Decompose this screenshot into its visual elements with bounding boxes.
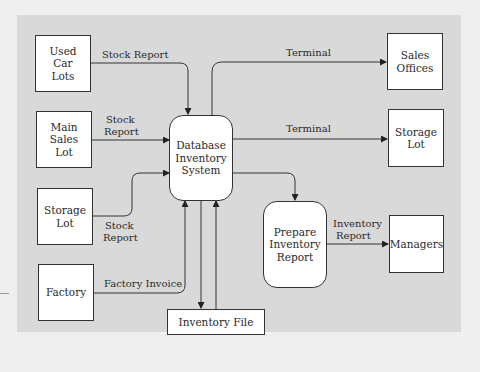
entity-storage-lot-dest: Storage Lot xyxy=(388,109,444,167)
entity-label: Storage Lot xyxy=(394,126,438,151)
entity-sales-offices: Sales Offices xyxy=(387,33,443,90)
flow-label: Stock xyxy=(106,114,135,126)
flow-label: Report xyxy=(336,230,371,242)
process-prepare-inventory-report: Prepare Inventory Report xyxy=(263,201,327,288)
flow-label: Stock Report xyxy=(102,49,168,61)
flow-label: Terminal xyxy=(286,47,331,59)
entity-label: Sales Offices xyxy=(395,49,435,74)
flow-label: Terminal xyxy=(286,123,331,135)
datastore-label: Inventory File xyxy=(179,316,254,329)
process-label: Database Inventory System xyxy=(173,139,229,177)
entity-label: Storage Lot xyxy=(43,204,87,229)
entity-label: Used Car Lots xyxy=(47,45,79,83)
flow-label: Report xyxy=(103,232,138,244)
entity-used-car-lots: Used Car Lots xyxy=(35,35,91,92)
entity-label: Managers xyxy=(390,238,443,251)
datastore-inventory-file: Inventory File xyxy=(167,309,265,335)
flow-label: Report xyxy=(104,126,139,138)
flow-label: Factory Invoice xyxy=(104,278,182,290)
entity-label: Main Sales Lot xyxy=(47,121,81,159)
process-label: Prepare Inventory Report xyxy=(267,226,323,264)
flow-label: Inventory xyxy=(333,218,382,230)
process-database-inventory-system: Database Inventory System xyxy=(169,115,233,201)
flow-label: Stock xyxy=(105,220,134,232)
entity-main-sales-lot: Main Sales Lot xyxy=(36,111,92,168)
entity-factory: Factory xyxy=(38,264,94,321)
entity-storage-lot-source: Storage Lot xyxy=(37,188,93,245)
entity-managers: Managers xyxy=(389,215,444,273)
entity-label: Factory xyxy=(46,286,86,299)
